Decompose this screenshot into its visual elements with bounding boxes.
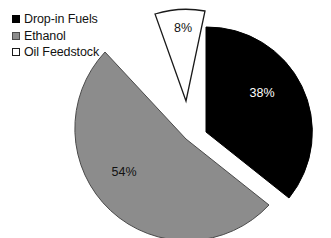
pie-slice-drop-in-fuels-value: 38%: [249, 86, 274, 100]
legend-item-label: Oil Feedstock: [24, 46, 99, 59]
square-filled-black-icon: [12, 15, 20, 23]
legend-item-label: Drop-in Fuels: [24, 13, 98, 26]
square-filled-gray-icon: [12, 32, 20, 40]
legend-item-drop-in-fuels[interactable]: Drop-in Fuels: [12, 13, 99, 26]
legend-item-ethanol[interactable]: Ethanol: [12, 30, 99, 43]
legend-item-label: Ethanol: [24, 30, 66, 43]
square-outline-white-icon: [12, 48, 20, 56]
legend-item-oil-feedstock[interactable]: Oil Feedstock: [12, 46, 99, 59]
pie-chart-figure: 38% 54% 8% Drop-in Fuels Ethanol Oil Fee…: [0, 0, 331, 238]
pie-slice-oil-feedstock[interactable]: 8%: [155, 9, 205, 101]
pie-slice-oil-feedstock-value: 8%: [174, 21, 192, 35]
chart-legend: Drop-in Fuels Ethanol Oil Feedstock: [12, 13, 99, 59]
pie-slice-ethanol-value: 54%: [111, 165, 136, 179]
